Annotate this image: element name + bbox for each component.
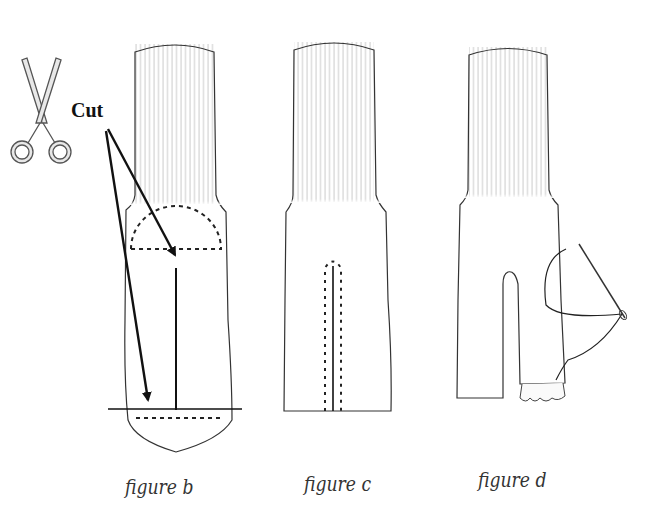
- scissors-icon: [11, 58, 71, 163]
- caption-figure-b: figure b: [125, 475, 194, 499]
- cut-annotation: Cut: [71, 99, 103, 122]
- figure-c-garment: [284, 42, 391, 411]
- caption-figure-c: figure c: [304, 472, 371, 496]
- figure-b-garment: [106, 44, 242, 452]
- figure-d-garment: [457, 47, 628, 401]
- needle-icon: [545, 244, 628, 380]
- sewing-diagram: [0, 0, 657, 517]
- caption-figure-d: figure d: [478, 468, 547, 492]
